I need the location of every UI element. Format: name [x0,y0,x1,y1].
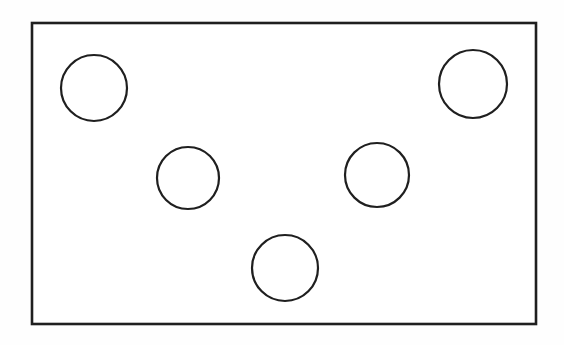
circle-top-right [439,50,507,118]
figure-svg [0,0,564,345]
circle-top-left [61,55,127,121]
drawing-canvas: Rectangle outline containing five circle… [0,0,564,345]
circle-bottom-center [252,235,318,301]
circle-middle-left [157,147,219,209]
circle-middle-right [345,143,409,207]
